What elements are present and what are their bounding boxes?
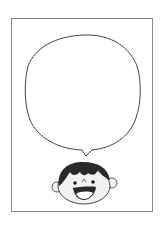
speech-bubble bbox=[25, 35, 140, 156]
character-face bbox=[52, 162, 117, 204]
left-eye-icon bbox=[73, 181, 77, 185]
illustration-canvas bbox=[0, 0, 164, 226]
right-eye-icon bbox=[91, 180, 95, 184]
